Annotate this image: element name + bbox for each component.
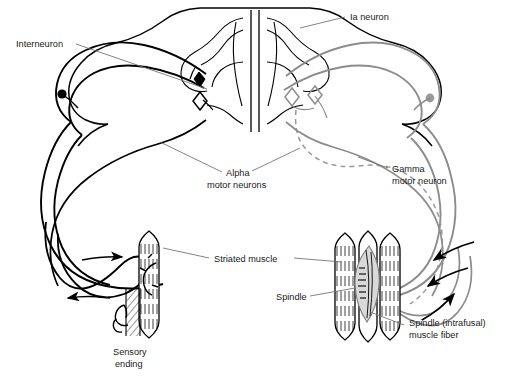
peripheral-nerve-black: [45, 222, 150, 297]
label-alpha-line2: motor neurons: [207, 180, 267, 190]
label-intrafusal-line1: Spindle (intrafusal): [409, 318, 486, 328]
label-intrafusal-line2: muscle fiber: [409, 330, 459, 340]
synapse-symbols-left: [190, 66, 213, 110]
direction-arrows-left: [68, 257, 122, 298]
reflex-arc-diagram: Interneuron Ia neuron Alpha motor neuron…: [0, 0, 510, 379]
label-alpha-line1: Alpha: [226, 168, 250, 178]
diagram-canvas: Interneuron Ia neuron Alpha motor neuron…: [0, 0, 510, 379]
leader-interneuron: [76, 44, 207, 89]
leader-gamma: [358, 157, 388, 168]
label-sensory-line2: ending: [115, 359, 143, 369]
leader-striated-left: [163, 248, 209, 258]
label-spindle: Spindle: [276, 292, 307, 302]
label-gamma-line2: motor neuron: [392, 176, 447, 186]
label-gamma-line1: Gamma: [392, 164, 426, 174]
leader-ia-neuron: [300, 17, 345, 28]
synapse-symbols-right: [285, 86, 327, 118]
label-ia-neuron: Ia neuron: [350, 12, 389, 22]
striated-muscle-fiber-left: [139, 231, 159, 338]
tendon-attachment: [126, 288, 140, 336]
leader-alpha: [160, 142, 222, 172]
label-striated-muscle: Striated muscle: [214, 254, 277, 264]
leader-alpha-2: [252, 148, 300, 171]
label-sensory-line1: Sensory: [113, 347, 147, 357]
label-interneuron: Interneuron: [16, 39, 63, 49]
striated-muscle-group-right: [335, 231, 400, 342]
direction-arrows-right: [422, 242, 474, 320]
spinal-cord-outline: [69, 8, 442, 146]
